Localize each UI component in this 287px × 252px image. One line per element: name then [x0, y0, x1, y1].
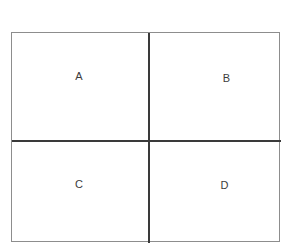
quadrant-label-b: B	[223, 73, 231, 84]
quadrant-cell-d[interactable]: D	[150, 142, 281, 243]
quadrant-label-a: A	[75, 71, 83, 82]
diagram-canvas: A B C D	[0, 0, 287, 252]
quadrant-cell-c[interactable]: C	[12, 142, 148, 243]
quadrant-label-c: C	[75, 179, 83, 190]
quadrant-grid: A B C D	[11, 32, 280, 242]
quadrant-label-d: D	[220, 180, 228, 191]
quadrant-cell-a[interactable]: A	[12, 33, 148, 140]
quadrant-cell-b[interactable]: B	[150, 33, 281, 140]
